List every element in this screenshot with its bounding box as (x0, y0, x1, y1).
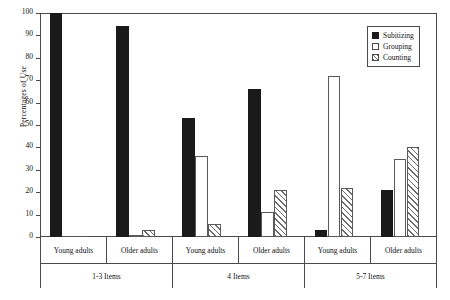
bar-counting-3 (274, 190, 287, 237)
y-tick-label: 60 (26, 97, 34, 106)
x-axis-label-age-0: Young adults (41, 237, 106, 263)
bar-subitizing-2 (182, 118, 195, 237)
bar-subitizing-5 (381, 190, 394, 237)
bar-counting-5 (407, 147, 420, 237)
x-axis-label-age-1: Older adults (106, 237, 172, 263)
bar-subitizing-4 (315, 230, 328, 237)
x-axis-label-items-1: 4 Items (172, 264, 304, 288)
x-axis-label-age-5: Older adults (370, 237, 436, 263)
x-axis-label-age-2: Young adults (172, 237, 238, 263)
y-tick-label: 100 (22, 7, 33, 16)
y-tick-label: 0 (29, 231, 33, 240)
x-axis-label-age-4: Young adults (304, 237, 370, 263)
legend: Subitizing Grouping Counting (367, 26, 420, 67)
y-tick-label: 90 (26, 29, 34, 38)
bar-grouping-2 (195, 156, 208, 237)
bar-counting-1 (142, 230, 155, 237)
legend-label-grouping: Grouping (383, 42, 412, 51)
legend-label-counting: Counting (383, 53, 411, 62)
bar-subitizing-0 (50, 13, 63, 237)
x-axis-label-items-0: 1-3 Items (41, 264, 172, 288)
y-tick-label: 70 (26, 74, 34, 83)
bar-grouping-4 (328, 76, 341, 237)
legend-item-subitizing: Subitizing (372, 30, 414, 41)
legend-item-counting: Counting (372, 52, 414, 63)
bar-subitizing-1 (116, 26, 129, 237)
bar-subitizing-3 (248, 89, 261, 237)
bar-counting-4 (341, 188, 354, 237)
bar-counting-2 (208, 224, 221, 237)
y-tick-label: 10 (26, 209, 34, 218)
legend-label-subitizing: Subitizing (383, 31, 414, 40)
y-tick-label: 50 (26, 119, 34, 128)
x-axis-item-groups: 1-3 Items4 Items5-7 Items (40, 263, 437, 288)
legend-swatch-subitizing (372, 32, 379, 39)
x-axis-age-groups: Young adultsOlder adultsYoung adultsOlde… (40, 237, 437, 263)
bar-chart: Percentages of Use 100908070605040302010… (0, 0, 450, 300)
legend-swatch-counting (372, 54, 379, 61)
bar-grouping-3 (261, 212, 274, 237)
bar-grouping-5 (394, 159, 407, 237)
x-axis-label-items-2: 5-7 Items (304, 264, 436, 288)
legend-swatch-grouping (372, 43, 379, 50)
legend-item-grouping: Grouping (372, 41, 414, 52)
y-tick-label: 20 (26, 186, 34, 195)
y-tick-label: 80 (26, 52, 34, 61)
x-axis-label-age-3: Older adults (238, 237, 304, 263)
y-tick-label: 40 (26, 141, 34, 150)
y-tick-label: 30 (26, 164, 34, 173)
